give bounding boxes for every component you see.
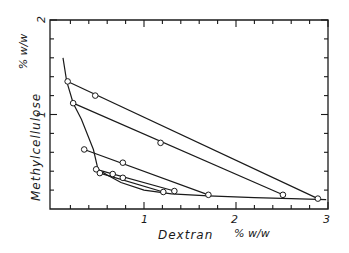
tie-line-2 <box>73 103 283 195</box>
data-lines <box>63 58 326 200</box>
phase-diagram <box>0 0 349 253</box>
data-point-marker <box>70 100 76 106</box>
plot-frame <box>50 20 328 209</box>
data-point-marker <box>172 188 178 194</box>
data-point-marker <box>110 171 116 177</box>
data-point-marker <box>158 140 164 146</box>
x-tick-label-2: 2 <box>231 213 238 226</box>
data-point-marker <box>92 93 98 99</box>
data-point-marker <box>97 170 103 176</box>
data-point-marker <box>161 189 167 195</box>
data-point-marker <box>65 79 71 85</box>
binodal-curve <box>63 58 326 200</box>
tie-line-1 <box>68 81 318 198</box>
y-axis-title: Methylcellulose <box>29 93 43 201</box>
data-point-marker <box>120 160 126 166</box>
data-point-marker <box>280 192 286 198</box>
data-point-marker <box>120 175 126 181</box>
y-axis-unit: % w/w <box>17 34 30 70</box>
x-tick-label-3: 3 <box>323 213 330 226</box>
axis-ticks <box>50 20 328 209</box>
x-axis-title: Dextran <box>158 228 213 242</box>
data-point-marker <box>315 196 321 202</box>
y-tick-label-2: 2 <box>35 16 48 23</box>
x-tick-label-1: 1 <box>141 213 148 226</box>
data-point-marker <box>81 147 87 153</box>
tie-line-5 <box>100 173 163 192</box>
data-point-marker <box>206 192 212 198</box>
x-axis-unit: % w/w <box>234 227 270 240</box>
